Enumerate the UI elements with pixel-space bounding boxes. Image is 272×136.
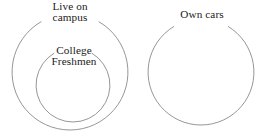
euler-diagram-canvas: Live on campus College Freshmen Own cars	[0, 0, 272, 136]
label-college-freshmen: College Freshmen	[30, 45, 118, 68]
label-own-cars-line1: Own cars	[165, 9, 239, 20]
circle-live-on-campus	[12, 22, 128, 130]
label-live-on-campus-line2: campus	[26, 12, 114, 23]
circle-own-cars	[148, 27, 254, 125]
label-live-on-campus: Live on campus	[26, 1, 114, 24]
label-college-freshmen-line2: Freshmen	[30, 56, 118, 67]
label-own-cars: Own cars	[165, 9, 239, 20]
